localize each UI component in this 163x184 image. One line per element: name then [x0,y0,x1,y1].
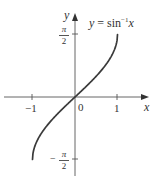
y-tick-label-neg-sign: − [50,154,56,164]
y-tick-label-neg-pi-half: π 2 [59,150,69,171]
fraction-denominator: 2 [59,161,69,171]
y-axis-arrow-icon [72,13,78,21]
y-axis-label: y [64,9,69,21]
function-label-exponent: −1 [121,16,128,24]
function-label-var: x [129,16,134,30]
function-label-eq: = sin [94,16,121,30]
x-tick-label-1: 1 [114,103,120,114]
fraction-numerator: π [59,25,69,36]
y-tick-label-pi-half: π 2 [59,25,69,46]
function-label: y = sin−1x [89,17,134,29]
x-tick-label-neg1: −1 [25,103,37,114]
x-axis-label: x [144,101,149,113]
chart-canvas [0,0,163,184]
x-tick-label-0: 0 [78,102,84,113]
fraction-denominator: 2 [59,36,69,46]
fraction-numerator: π [59,150,69,161]
